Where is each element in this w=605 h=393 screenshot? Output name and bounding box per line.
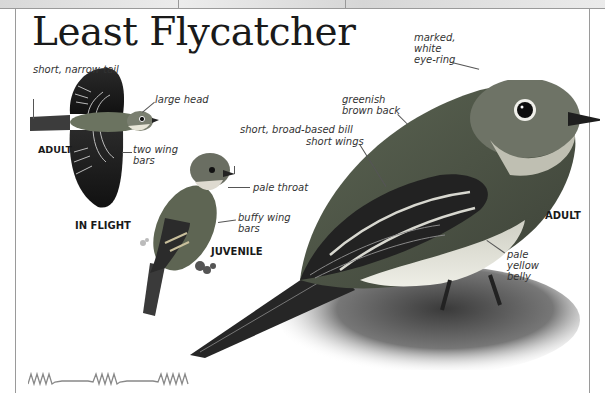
label-greenish-brown-back: greenish brown back	[342, 94, 404, 116]
leader-line	[122, 152, 132, 153]
leader-line	[33, 99, 34, 119]
adult-caption: ADULT	[545, 210, 581, 221]
page-title: Least Flycatcher	[32, 12, 355, 51]
label-short-narrow-tail: short, narrow tail	[33, 64, 119, 75]
adult-flight-caption: ADULT	[38, 144, 72, 155]
label-pale-yellow-belly: pale yellow belly	[507, 249, 562, 282]
label-marked-white-eye-ring: marked, white eye-ring	[414, 32, 464, 65]
leader-line	[452, 62, 479, 70]
in-flight-caption: IN FLIGHT	[75, 220, 131, 231]
top-header-band	[0, 0, 605, 9]
header-divider	[178, 0, 179, 8]
label-short-wings: short wings	[306, 136, 364, 147]
undulating-flight-pattern-icon	[28, 368, 228, 388]
header-divider	[345, 0, 346, 8]
adult-bird-illustration	[180, 80, 600, 370]
page-frame-left	[15, 8, 16, 393]
